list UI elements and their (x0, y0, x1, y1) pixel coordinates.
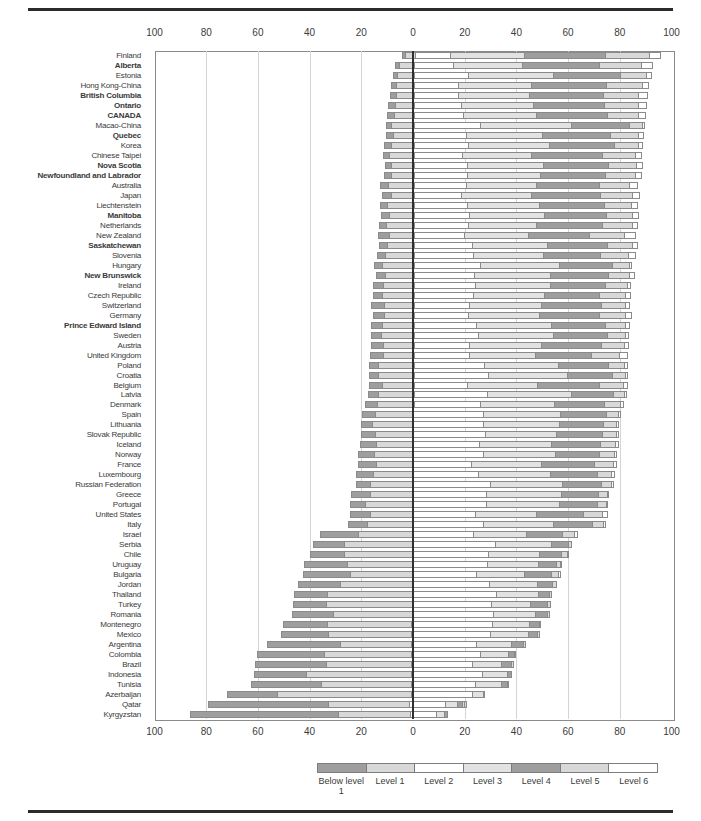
segment-level-1 (378, 392, 414, 397)
segment-level-4 (550, 283, 605, 288)
segment-level-3 (467, 173, 540, 178)
bar-row (387, 112, 646, 119)
segment-level-4 (540, 173, 605, 178)
legend-swatch-level-4 (511, 764, 560, 772)
segment-level-6 (625, 313, 631, 318)
axis-tick-label: 40 (290, 27, 330, 38)
segment-level-1 (391, 123, 414, 128)
segment-level-1 (338, 712, 410, 717)
segment-below-level-1 (378, 253, 385, 258)
segment-level-6 (628, 253, 635, 258)
country-label: New Brunswick (0, 271, 141, 280)
axis-tick-label: 0 (393, 27, 433, 38)
legend-label: Level 4 (512, 776, 561, 796)
segment-level-4 (551, 442, 600, 447)
segment-level-3 (466, 133, 542, 138)
segment-level-1 (386, 223, 414, 228)
segment-level-5 (602, 223, 632, 228)
legend-label: Below level 1 (317, 776, 366, 796)
segment-level-4 (544, 293, 599, 298)
country-label: Turkey (0, 600, 141, 609)
segment-level-1 (385, 253, 414, 258)
segment-level-2 (415, 53, 450, 58)
segment-level-4 (543, 253, 600, 258)
axis-tick-label: 80 (600, 27, 640, 38)
segment-below-level-1 (370, 373, 378, 378)
segment-level-4 (550, 273, 608, 278)
bar-row (378, 232, 637, 239)
legend-swatch-level-2 (414, 764, 463, 772)
segment-level-3 (483, 412, 560, 417)
axis-tick-label: 40 (496, 27, 536, 38)
segment-level-3 (468, 313, 539, 318)
segment-level-3 (476, 572, 524, 577)
segment-level-3 (467, 383, 537, 388)
grid-line (258, 51, 259, 719)
segment-below-level-1 (295, 592, 327, 597)
segment-level-3 (468, 73, 553, 78)
segment-level-3 (480, 123, 570, 128)
segment-level-2 (414, 353, 470, 358)
segment-level-1 (391, 163, 414, 168)
segment-level-1 (376, 462, 413, 467)
segment-level-2 (413, 472, 478, 477)
segment-level-6 (625, 293, 631, 298)
segment-level-1 (350, 572, 412, 577)
segment-level-4 (571, 392, 614, 397)
country-label: Alberta (0, 61, 141, 70)
segment-level-4 (529, 93, 603, 98)
segment-level-6 (613, 462, 616, 467)
legend-label: Level 3 (463, 776, 512, 796)
bar-row (348, 521, 607, 528)
bar-row (304, 561, 562, 568)
country-label: Jordan (0, 580, 141, 589)
segment-level-5 (606, 83, 642, 88)
segment-level-3 (469, 213, 544, 218)
segment-below-level-1 (284, 622, 328, 627)
segment-level-6 (635, 173, 642, 178)
segment-level-5 (606, 213, 633, 218)
segment-level-5 (607, 333, 625, 338)
country-label: Mexico (0, 630, 141, 639)
segment-below-level-1 (370, 383, 382, 388)
segment-level-4 (529, 622, 539, 627)
segment-level-6 (616, 432, 619, 437)
segment-level-1 (344, 552, 412, 557)
segment-level-1 (385, 273, 414, 278)
segment-level-5 (605, 53, 649, 58)
segment-level-3 (480, 652, 508, 657)
country-label: Poland (0, 361, 141, 370)
segment-level-4 (531, 83, 606, 88)
grid-line (206, 51, 207, 719)
segment-level-2 (414, 303, 470, 308)
segment-level-4 (559, 502, 597, 507)
segment-level-4 (543, 163, 608, 168)
segment-level-4 (567, 373, 612, 378)
segment-below-level-1 (314, 542, 344, 547)
segment-level-4 (444, 712, 447, 717)
segment-level-2 (411, 682, 475, 687)
bar-row (267, 641, 525, 648)
segment-level-6 (625, 333, 629, 338)
segment-level-6 (620, 402, 623, 407)
bar-row (356, 481, 615, 488)
segment-level-4 (539, 313, 599, 318)
segment-level-5 (568, 542, 571, 547)
segment-level-4 (536, 183, 599, 188)
segment-level-4 (541, 462, 594, 467)
country-label: Finland (0, 51, 141, 60)
country-label: Saskatchewan (0, 241, 141, 250)
country-label: United States (0, 510, 141, 519)
segment-level-5 (613, 392, 624, 397)
segment-below-level-1 (304, 572, 350, 577)
segment-level-5 (608, 273, 630, 278)
segment-level-3 (473, 253, 543, 258)
legend-swatch-level-5 (560, 764, 609, 772)
segment-level-3 (461, 193, 531, 198)
segment-level-3 (436, 712, 444, 717)
segment-below-level-1 (282, 632, 328, 637)
country-label: Japan (0, 191, 141, 200)
segment-level-2 (414, 243, 472, 248)
segment-level-2 (414, 313, 469, 318)
bar-row (377, 252, 636, 259)
